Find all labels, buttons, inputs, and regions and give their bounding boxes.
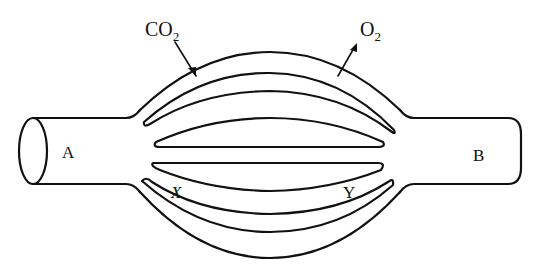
label-a: A — [62, 143, 75, 162]
upper-lens-channel — [155, 118, 384, 147]
o2-label: O2 — [360, 18, 381, 44]
vessel-end-b — [400, 110, 521, 192]
co2-arrow — [175, 42, 196, 76]
tube-right-outline — [400, 110, 521, 192]
co2-arrowhead-icon — [188, 67, 196, 76]
tube-opening-ellipse — [19, 118, 47, 184]
tube-top-edge-left — [33, 110, 140, 118]
co2-label: CO2 — [145, 18, 179, 44]
label-b: B — [473, 146, 484, 165]
label-x: X — [170, 183, 182, 202]
capillary-diagram: CO2 O2 A B X Y — [0, 0, 536, 278]
o2-arrowhead-icon — [350, 43, 357, 52]
label-y: Y — [343, 183, 355, 202]
upper-crescent-channel — [144, 73, 395, 133]
tube-bottom-edge-left — [33, 184, 140, 192]
vessel-end-a — [19, 110, 140, 192]
